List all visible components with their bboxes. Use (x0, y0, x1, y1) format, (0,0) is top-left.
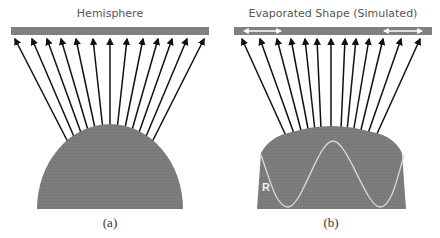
curve-label-r: R (262, 181, 270, 193)
substrate-bar (11, 27, 209, 35)
panel-a-caption: (a) (103, 215, 117, 230)
panel-a-title: Hemisphere (77, 7, 144, 20)
evaporation-diagram: Hemisphere (a) Evaporated Shape (Simulat… (0, 0, 440, 238)
hemisphere-shape (37, 124, 183, 209)
panel-b: Evaporated Shape (Simulated) R (b) (234, 7, 432, 230)
evaporated-shape (257, 126, 406, 209)
panel-b-title: Evaporated Shape (Simulated) (249, 7, 418, 20)
panel-a: Hemisphere (a) (11, 7, 209, 230)
panel-b-caption: (b) (323, 215, 338, 230)
